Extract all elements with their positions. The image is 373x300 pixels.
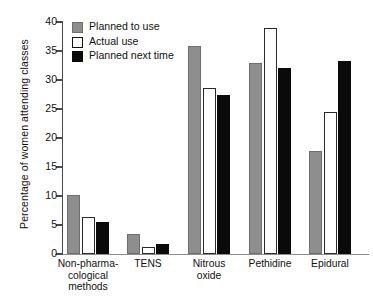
- bar-planned: [67, 195, 80, 254]
- y-axis-tick-label: 5: [17, 219, 57, 230]
- category-label-line: methods: [48, 281, 128, 293]
- category-label-line: oxide: [169, 270, 249, 282]
- bar-actual: [82, 217, 95, 254]
- y-axis-tick: [56, 224, 63, 225]
- y-axis-tick: [56, 166, 63, 167]
- bar-actual: [324, 112, 337, 254]
- x-axis-category-label: Epidural: [290, 258, 370, 270]
- category-label-line: Epidural: [290, 258, 370, 270]
- legend-label: Actual use: [89, 36, 138, 48]
- bar-planned: [188, 46, 201, 254]
- bar-chart: Percentage of women attending classes 40…: [0, 0, 373, 300]
- y-axis-tick: [56, 108, 63, 109]
- chart-legend: Planned to use Actual use Planned next t…: [72, 21, 174, 62]
- bar-next: [96, 222, 109, 254]
- bar-actual: [142, 247, 155, 254]
- y-axis-tick: [56, 253, 63, 254]
- bar-planned: [127, 234, 140, 254]
- bar-group: [188, 22, 230, 254]
- y-axis-tick: [56, 195, 63, 196]
- y-axis-tick: [56, 50, 63, 51]
- legend-swatch-icon-planned: [72, 22, 83, 33]
- legend-swatch-icon-actual: [72, 37, 83, 48]
- legend-swatch-icon-next: [72, 51, 83, 62]
- bar-planned: [249, 63, 262, 254]
- bar-next: [338, 61, 351, 254]
- y-axis-tick-label: 30: [17, 74, 57, 85]
- legend-item-actual-use: Actual use: [72, 36, 174, 48]
- bar-next: [217, 95, 230, 254]
- y-axis-tick-label: 35: [17, 45, 57, 56]
- legend-label: Planned next time: [89, 50, 174, 62]
- y-axis-tick-label: 15: [17, 161, 57, 172]
- legend-item-planned-next-time: Planned next time: [72, 50, 174, 62]
- bar-planned: [309, 151, 322, 254]
- bar-actual: [203, 88, 216, 254]
- y-axis-tick-label: 20: [17, 132, 57, 143]
- y-axis-tick-label: 25: [17, 103, 57, 114]
- y-axis-tick: [56, 137, 63, 138]
- legend-label: Planned to use: [89, 21, 160, 33]
- bar-next: [278, 68, 291, 254]
- y-axis-tick-label: 40: [17, 16, 57, 27]
- y-axis-tick: [56, 21, 63, 22]
- bar-group: [309, 22, 351, 254]
- y-axis-tick-label: 0: [17, 248, 57, 259]
- bar-next: [156, 244, 169, 254]
- y-axis-tick-label: 10: [17, 190, 57, 201]
- bar-group: [249, 22, 291, 254]
- bar-actual: [264, 28, 277, 254]
- x-axis-line: [55, 254, 369, 255]
- y-axis-tick: [56, 79, 63, 80]
- category-label-line: cological: [48, 270, 128, 282]
- legend-item-planned-to-use: Planned to use: [72, 21, 174, 33]
